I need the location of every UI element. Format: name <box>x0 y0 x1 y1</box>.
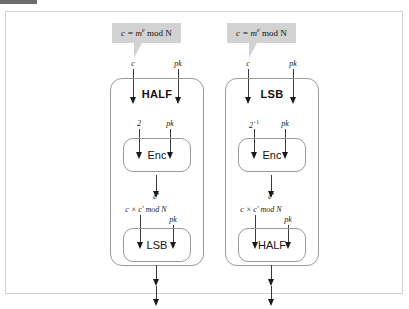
figure-root: c = me mod N c pk HALF 2 pk Enc c' c × c… <box>0 0 409 309</box>
outer-box-title-half: HALF <box>98 88 216 100</box>
label-input-pk-left: pk <box>174 60 182 68</box>
label-enc-input-2-left: 2 <box>137 120 141 128</box>
enc-box-label-right: Enc <box>239 149 305 161</box>
figure-panel: c = me mod N c pk HALF 2 pk Enc c' c × c… <box>5 11 403 294</box>
column-half-to-lsb: c = me mod N c pk HALF 2 pk Enc c' c × c… <box>98 12 216 295</box>
label-out-input-pk-right: pk <box>284 216 292 224</box>
bubble-suffix-left: mod N <box>145 28 172 38</box>
arrow-enc-output-left <box>156 175 157 192</box>
caption-color-swatch <box>0 0 37 4</box>
arrow-final-output-left <box>156 286 157 300</box>
enc-box-label-left: Enc <box>124 149 190 161</box>
arrow-enc-output-right <box>271 175 272 192</box>
bubble-formula-left: c = me mod N <box>112 23 181 43</box>
label-out-input-pk-left: pk <box>169 216 177 224</box>
label-enc-output-left: c' <box>153 193 158 201</box>
bubble-formula-text-left: c = m <box>121 28 142 38</box>
outer-box-title-lsb: LSB <box>213 88 331 100</box>
label-out-input-product-right: c × c' mod N <box>240 206 281 214</box>
out-box-label-left: LSB <box>124 239 190 251</box>
out-box-label-right: HALF <box>239 239 305 251</box>
bubble-tail-right <box>249 41 258 58</box>
label-enc-output-right: c' <box>268 193 273 201</box>
label-enc-input-pk-left: pk <box>166 120 174 128</box>
column-lsb-to-half: c = me mod N c pk LSB 2−1 pk Enc c' c × … <box>213 12 331 295</box>
bubble-tail-left <box>134 41 143 58</box>
caption-strip <box>0 0 409 9</box>
bubble-formula-text-right: c = m <box>236 28 257 38</box>
bubble-suffix-right: mod N <box>260 28 287 38</box>
label-input-c-right: c <box>246 60 250 68</box>
enc-box-left: Enc <box>123 138 191 172</box>
arrow-out-to-outer-left <box>156 265 157 280</box>
out-box-left: LSB <box>123 228 191 262</box>
enc-box-right: Enc <box>238 138 306 172</box>
label-enc-input-pk-right: pk <box>281 120 289 128</box>
label-input-c-left: c <box>131 60 135 68</box>
label-out-input-product-left: c × c' mod N <box>125 206 166 214</box>
out-box-right: HALF <box>238 228 306 262</box>
arrow-final-output-right <box>271 286 272 300</box>
arrow-out-to-outer-right <box>271 265 272 280</box>
label-input-pk-right: pk <box>289 60 297 68</box>
bubble-formula-right: c = me mod N <box>227 23 296 43</box>
